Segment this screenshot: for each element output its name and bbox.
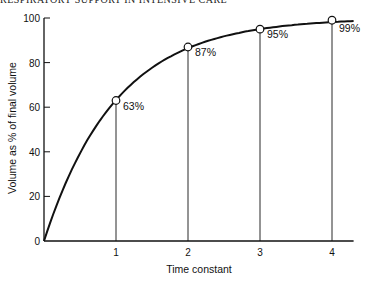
point-markers: 63%87%95%99% — [112, 16, 360, 111]
y-tick-label: 0 — [34, 236, 40, 247]
point-marker — [256, 25, 264, 33]
drop-lines — [116, 20, 332, 241]
x-tick-label: 2 — [185, 247, 191, 258]
y-tick-label: 20 — [29, 191, 41, 202]
x-tick-label: 4 — [329, 247, 335, 258]
point-label: 63% — [123, 100, 144, 112]
y-tick-label: 100 — [23, 13, 40, 24]
point-label: 87% — [195, 46, 216, 58]
point-marker — [184, 43, 192, 51]
point-marker — [112, 97, 120, 105]
x-tick-label: 1 — [113, 247, 119, 258]
y-tick-label: 80 — [29, 58, 41, 69]
y-axis-label: Volume as % of final volume — [6, 62, 18, 194]
ticks: 0204060801001234 — [23, 13, 335, 258]
x-axis-label: Time constant — [166, 263, 232, 275]
exponential-volume-chart: 0204060801001234 63%87%95%99% Time const… — [0, 0, 371, 284]
x-tick-label: 3 — [257, 247, 263, 258]
point-label: 99% — [339, 22, 360, 34]
y-tick-label: 40 — [29, 147, 41, 158]
y-tick-label: 60 — [29, 102, 41, 113]
point-label: 95% — [267, 28, 288, 40]
point-marker — [328, 16, 336, 24]
